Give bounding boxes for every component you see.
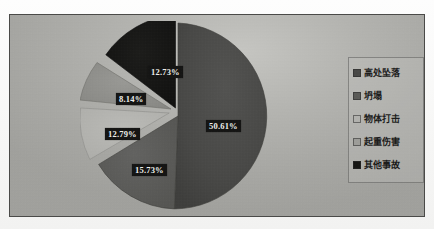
legend-swatch-icon [353,92,361,100]
data-label-qizhongshanghai: 8.14% [116,93,146,105]
legend-item-qitashigu[interactable]: 其他事故 [353,155,420,175]
plot-area: 50.61% 15.73% 12.79% 8.14% 12.73% 高处坠落 坍… [10,15,425,217]
chart-frame: 50.61% 15.73% 12.79% 8.14% 12.73% 高处坠落 坍… [9,14,425,217]
data-label-gaochuzhuiluo: 50.61% [206,120,241,132]
legend-swatch-icon [353,161,361,169]
legend-label: 其他事故 [364,161,400,170]
legend-swatch-icon [353,115,361,123]
legend-swatch-icon [353,138,361,146]
legend-label: 物体打击 [364,115,400,124]
legend-item-tanta[interactable]: 坍塌 [353,86,420,106]
legend-item-qizhongshanghai[interactable]: 起重伤害 [353,132,420,152]
legend-label: 高处坠落 [364,69,400,78]
legend-item-wutidaji[interactable]: 物体打击 [353,109,420,129]
page-background: 50.61% 15.73% 12.79% 8.14% 12.73% 高处坠落 坍… [0,0,434,229]
legend-swatch-icon [353,69,361,77]
pie-slice-gaochuzhuiluo[interactable] [174,23,266,209]
data-label-wutidaji: 12.79% [105,128,140,140]
data-label-qitashigu: 12.73% [148,66,183,78]
chart-legend: 高处坠落 坍塌 物体打击 起重伤害 其他事故 [348,57,424,183]
legend-item-gaochuzhuiluo[interactable]: 高处坠落 [353,63,420,83]
legend-label: 起重伤害 [364,138,400,147]
pie-chart [80,21,276,211]
data-label-tanta: 15.73% [132,164,167,176]
legend-label: 坍塌 [364,92,382,101]
